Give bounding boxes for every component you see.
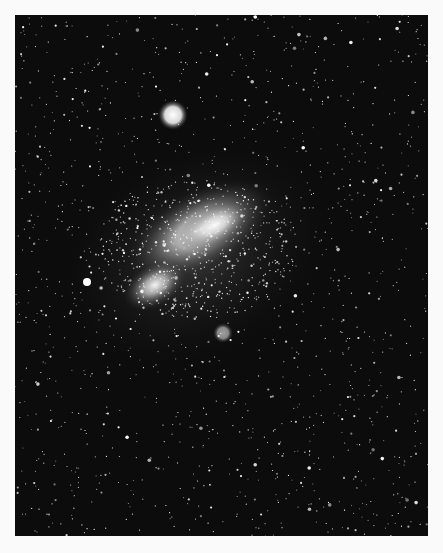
globular-cluster (158, 100, 188, 130)
bright-star-left (83, 278, 91, 286)
astronomical-photograph (15, 15, 428, 536)
star-field (15, 15, 428, 536)
